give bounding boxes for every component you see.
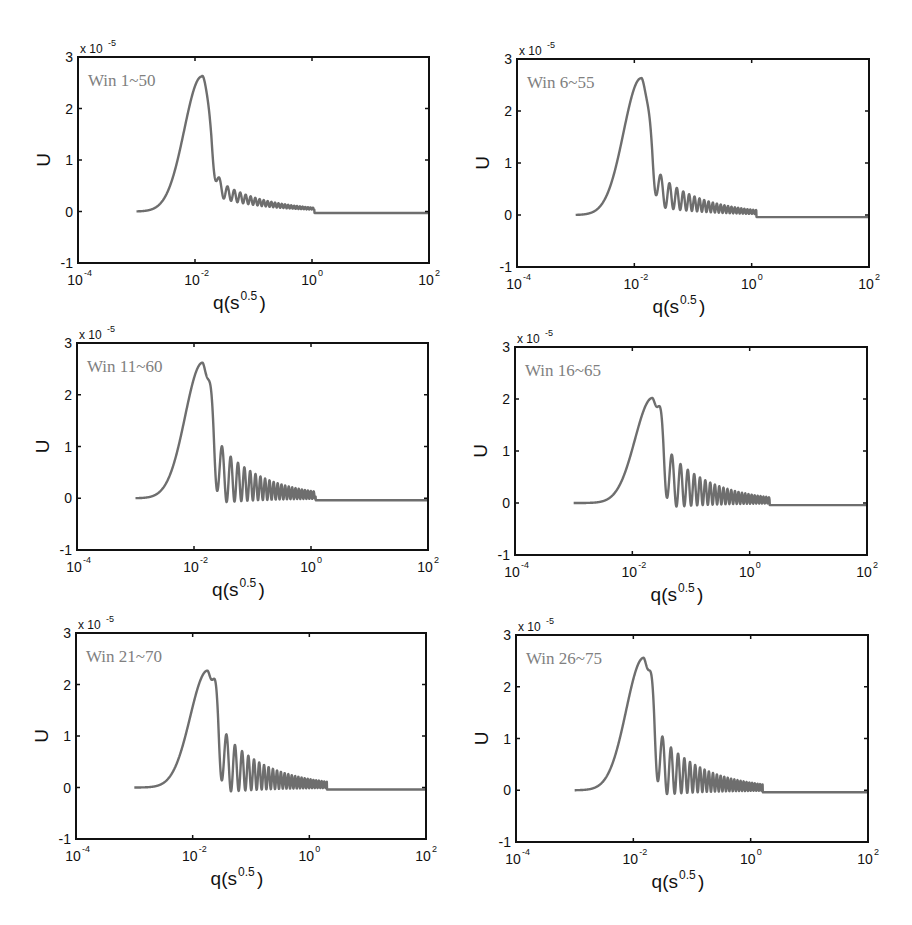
y-tick-label: -1 bbox=[499, 834, 512, 850]
y-tick-label: 1 bbox=[503, 731, 511, 747]
y-tick-label: 3 bbox=[503, 627, 511, 643]
x-tick-exponent: 0 bbox=[757, 847, 762, 857]
scale-exponent: -5 bbox=[546, 616, 554, 626]
x-tick-exponent: -4 bbox=[522, 847, 530, 857]
window-annotation: Win 26~75 bbox=[526, 649, 602, 668]
y-axis-label: U bbox=[471, 732, 492, 746]
y-scale-multiplier: x 10-5 bbox=[518, 616, 554, 634]
chart-panel-6: 3210-110-410-2100102x 10-5Uq(s0.5)Win 26… bbox=[0, 0, 912, 925]
x-tick-base: 10 bbox=[857, 851, 873, 867]
x-tick-base: 10 bbox=[505, 851, 521, 867]
scale-base: x 10 bbox=[518, 620, 541, 634]
x-label-base: q(s bbox=[652, 871, 678, 892]
x-label-superscript: 0.5 bbox=[679, 868, 696, 882]
x-tick-exponent: 2 bbox=[874, 847, 879, 857]
x-tick-exponent: -2 bbox=[639, 847, 647, 857]
x-tick-base: 10 bbox=[623, 851, 639, 867]
x-tick-label: 10-4 bbox=[505, 847, 530, 867]
x-tick-base: 10 bbox=[740, 851, 756, 867]
y-tick-label: 2 bbox=[503, 679, 511, 695]
data-curve bbox=[575, 658, 868, 794]
x-axis-label: q(s0.5) bbox=[652, 868, 705, 892]
y-tick-label: 0 bbox=[503, 782, 511, 798]
x-label-close: ) bbox=[698, 871, 704, 892]
x-tick-label: 10-2 bbox=[623, 847, 648, 867]
x-tick-label: 102 bbox=[857, 847, 879, 867]
chart-svg: 3210-110-410-2100102x 10-5Uq(s0.5)Win 26… bbox=[0, 0, 912, 925]
x-tick-label: 100 bbox=[740, 847, 762, 867]
